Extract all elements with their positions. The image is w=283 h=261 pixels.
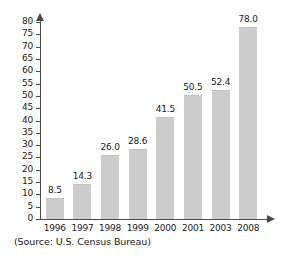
y-axis-tick: 70: [0, 47, 40, 48]
x-axis-arrow-icon: [267, 215, 275, 223]
y-axis-tick-mark: [36, 170, 40, 171]
y-axis-tick-mark: [36, 96, 40, 97]
y-axis-tick: 60: [0, 71, 40, 72]
y-axis-tick-mark: [36, 84, 40, 85]
y-axis-tick: 10: [0, 194, 40, 195]
y-axis-tick: 15: [0, 182, 40, 183]
bar-rect[interactable]: [129, 149, 147, 219]
y-axis-tick: 25: [0, 157, 40, 158]
bar-rect[interactable]: [156, 117, 174, 219]
bar-value-label: 28.6: [121, 136, 155, 147]
y-axis-tick-label: 5: [27, 201, 33, 212]
y-axis-tick-label: 35: [22, 127, 33, 138]
y-axis-tick-label: 20: [22, 164, 33, 175]
bar-rect[interactable]: [184, 95, 202, 219]
y-axis-tick-label: 60: [22, 65, 33, 76]
bar-item[interactable]: 26.01998: [101, 155, 119, 219]
bar-value-label: 14.3: [65, 171, 99, 182]
bar-item[interactable]: 41.52000: [156, 117, 174, 219]
y-axis-tick-mark: [36, 108, 40, 109]
bar-value-label: 52.4: [204, 77, 238, 88]
x-axis-line: [40, 219, 268, 220]
y-axis-tick-label: 15: [22, 176, 33, 187]
y-axis-tick-label: 45: [22, 102, 33, 113]
y-axis-arrow-icon: [36, 13, 44, 21]
y-axis-tick-mark: [36, 219, 40, 220]
bar-value-label: 41.5: [148, 104, 182, 115]
x-axis-category-label: 2008: [231, 223, 265, 234]
bar-rect[interactable]: [73, 184, 91, 219]
y-axis-tick: 75: [0, 34, 40, 35]
bar-rect[interactable]: [212, 90, 230, 219]
y-axis-tick-mark: [36, 145, 40, 146]
bar-value-label: 78.0: [231, 14, 265, 25]
y-axis-tick: 80: [0, 22, 40, 23]
plot-area: 05101520253035404550556065707580 8.51996…: [0, 0, 283, 261]
y-axis-tick-mark: [36, 59, 40, 60]
y-axis-tick-label: 70: [22, 41, 33, 52]
source-note: (Source: U.S. Census Bureau): [14, 236, 151, 248]
y-axis-tick-label: 40: [22, 115, 33, 126]
y-axis-tick: 45: [0, 108, 40, 109]
y-axis-tick-label: 50: [22, 90, 33, 101]
y-axis-tick-label: 55: [22, 78, 33, 89]
bar-rect[interactable]: [46, 198, 64, 219]
y-axis-tick-mark: [36, 157, 40, 158]
bar-item[interactable]: 28.61999: [129, 149, 147, 219]
bar-item[interactable]: 50.52001: [184, 95, 202, 219]
y-axis-tick: 40: [0, 121, 40, 122]
y-axis-tick: 55: [0, 84, 40, 85]
y-axis-tick-mark: [36, 47, 40, 48]
y-axis-tick: 0: [0, 219, 40, 220]
y-axis-tick-mark: [36, 121, 40, 122]
bar-item[interactable]: 8.51996: [46, 198, 64, 219]
y-axis-tick-label: 75: [22, 28, 33, 39]
y-axis-tick: 20: [0, 170, 40, 171]
bar-item[interactable]: 78.02008: [239, 27, 257, 219]
y-axis-tick-mark: [36, 71, 40, 72]
bar-item[interactable]: 52.42003: [212, 90, 230, 219]
y-axis-tick: 50: [0, 96, 40, 97]
y-axis-tick-label: 0: [27, 213, 33, 224]
y-axis-tick-mark: [36, 133, 40, 134]
y-axis-tick: 35: [0, 133, 40, 134]
bar-value-label: 8.5: [38, 185, 72, 196]
y-axis-tick: 65: [0, 59, 40, 60]
y-axis-tick-label: 80: [22, 16, 33, 27]
y-axis-tick: 5: [0, 207, 40, 208]
y-axis-tick-mark: [36, 22, 40, 23]
y-axis-tick-mark: [36, 207, 40, 208]
y-axis-tick-label: 10: [22, 188, 33, 199]
y-axis-tick-label: 25: [22, 151, 33, 162]
bar-item[interactable]: 14.31997: [73, 184, 91, 219]
y-axis-tick-label: 65: [22, 53, 33, 64]
bar-rect[interactable]: [101, 155, 119, 219]
y-axis-tick-mark: [36, 182, 40, 183]
y-axis-tick-mark: [36, 34, 40, 35]
y-axis-tick-label: 30: [22, 139, 33, 150]
bar-chart: 05101520253035404550556065707580 8.51996…: [0, 0, 283, 261]
y-axis-tick: 30: [0, 145, 40, 146]
bar-rect[interactable]: [239, 27, 257, 219]
